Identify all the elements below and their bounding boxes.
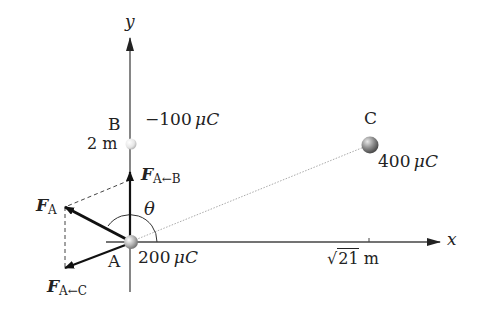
charge-c-value: 400 μC xyxy=(378,153,438,170)
force-symbol: F xyxy=(36,195,48,215)
force-symbol: F xyxy=(47,276,59,296)
charge-a-value: 200 μC xyxy=(138,249,198,266)
charge-b-value: −100 μC xyxy=(145,111,219,128)
charge-c-label: C xyxy=(364,110,377,127)
y-tick-label: 2 m xyxy=(87,136,117,152)
force-arrow-net-a xyxy=(65,207,128,240)
charge-b-unit: μC xyxy=(195,109,219,129)
force-subscript: A←C xyxy=(59,284,87,298)
angle-theta-label: θ xyxy=(144,200,155,218)
charge-c-unit: μC xyxy=(414,151,438,171)
x-tick-label: √21 m xyxy=(327,251,379,267)
y-axis-label: y xyxy=(125,13,135,30)
x-axis-label: x xyxy=(447,231,457,248)
force-subscript: A←B xyxy=(153,172,181,186)
charge-a-sphere xyxy=(124,235,138,249)
charge-b-label: B xyxy=(108,116,121,133)
charge-b-sphere xyxy=(126,139,137,150)
a-to-c-dotted-line xyxy=(130,145,369,242)
charge-c-magnitude: 400 xyxy=(378,151,410,171)
x-tick-unit: m xyxy=(364,249,379,268)
charge-c-sphere xyxy=(362,137,379,154)
force-net-a-label: FA xyxy=(36,197,57,214)
coulomb-force-diagram: y x 2 m √21 m A B C 200 μC −100 μC 400 μ… xyxy=(0,0,489,314)
charge-a-label: A xyxy=(108,253,120,270)
sqrt-symbol: √ xyxy=(327,249,337,268)
sqrt-radicand: 21 xyxy=(337,248,358,268)
force-a-from-b-label: FA←B xyxy=(141,166,181,183)
charge-a-magnitude: 200 xyxy=(138,247,170,267)
charge-a-unit: μC xyxy=(174,247,198,267)
force-subscript: A xyxy=(48,203,57,217)
force-a-from-c-label: FA←C xyxy=(47,278,87,295)
charge-b-magnitude: −100 xyxy=(145,109,192,129)
force-symbol: F xyxy=(141,164,153,184)
dashed-line-fab-to-fa xyxy=(65,180,130,207)
